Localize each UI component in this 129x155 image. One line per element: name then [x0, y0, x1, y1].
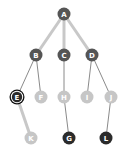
- edge-A-D: [64, 14, 92, 55]
- tree-diagram: ABCDEFHIJKGL: [0, 0, 129, 155]
- node-C[interactable]: C: [58, 49, 71, 62]
- node-F[interactable]: F: [35, 91, 48, 104]
- edge-D-J: [92, 55, 111, 97]
- node-I[interactable]: I: [81, 91, 94, 104]
- node-label: D: [89, 52, 95, 60]
- node-label: G: [66, 135, 72, 143]
- node-L[interactable]: L: [100, 132, 113, 145]
- node-label: F: [39, 94, 44, 102]
- node-label: A: [61, 11, 67, 19]
- node-label: L: [104, 135, 109, 143]
- node-H[interactable]: H: [58, 91, 71, 104]
- node-label: K: [28, 135, 34, 143]
- node-label: B: [33, 52, 38, 60]
- node-A[interactable]: A: [58, 8, 71, 21]
- node-label: H: [61, 94, 67, 102]
- edge-A-B: [36, 14, 64, 55]
- node-G[interactable]: G: [63, 132, 76, 145]
- edges-layer: [17, 14, 111, 138]
- node-D[interactable]: D: [86, 49, 99, 62]
- node-label: C: [61, 52, 66, 60]
- node-label: J: [109, 94, 113, 102]
- node-B[interactable]: B: [30, 49, 43, 62]
- node-E[interactable]: E: [10, 90, 25, 105]
- node-J[interactable]: J: [105, 91, 118, 104]
- node-label: E: [15, 94, 20, 102]
- node-K[interactable]: K: [25, 132, 38, 145]
- node-label: I: [86, 94, 89, 102]
